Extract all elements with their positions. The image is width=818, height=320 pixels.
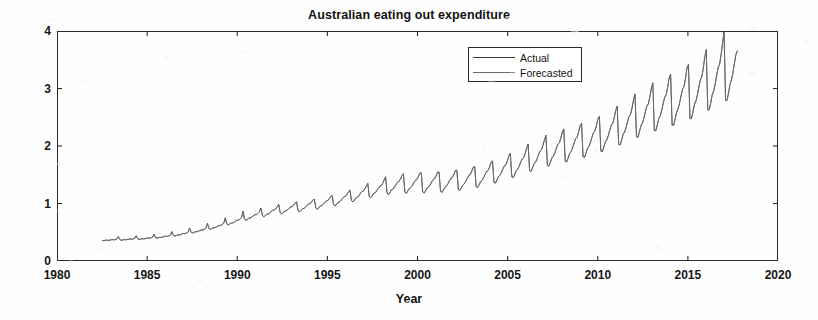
- y-tick-label: 0: [11, 254, 51, 268]
- y-tick-label: 3: [11, 82, 51, 96]
- x-tick-label: 1985: [117, 268, 177, 282]
- legend-item-forecasted: Forecasted: [469, 65, 581, 80]
- chart-figure: Australian eating out expenditure 01234 …: [0, 0, 818, 320]
- scan-artifact: [415, 265, 424, 267]
- legend-label-actual: Actual: [520, 52, 549, 64]
- x-tick-label: 1995: [297, 268, 357, 282]
- scan-artifact: [804, 39, 809, 43]
- x-tick-label: 1980: [27, 268, 87, 282]
- plot-area: [57, 31, 778, 261]
- legend-line-actual: [473, 57, 515, 58]
- legend-line-forecasted: [473, 72, 515, 73]
- x-tick-label: 2000: [388, 268, 448, 282]
- x-tick-label: 2010: [568, 268, 628, 282]
- scan-artifact: [197, 279, 203, 283]
- legend-label-forecasted: Forecasted: [520, 67, 573, 79]
- x-tick-label: 2020: [748, 268, 808, 282]
- scan-artifact: [750, 26, 758, 30]
- scan-artifact: [810, 257, 816, 261]
- y-tick-label: 4: [11, 24, 51, 38]
- x-axis-label: Year: [0, 292, 818, 306]
- chart-title: Australian eating out expenditure: [0, 8, 818, 22]
- x-tick-label: 1990: [207, 268, 267, 282]
- x-tick-label: 2015: [658, 268, 718, 282]
- legend-item-actual: Actual: [469, 50, 581, 65]
- y-tick-label: 1: [11, 197, 51, 211]
- chart-legend: Actual Forecasted: [468, 47, 582, 82]
- x-tick-label: 2005: [478, 268, 538, 282]
- y-tick-label: 2: [11, 139, 51, 153]
